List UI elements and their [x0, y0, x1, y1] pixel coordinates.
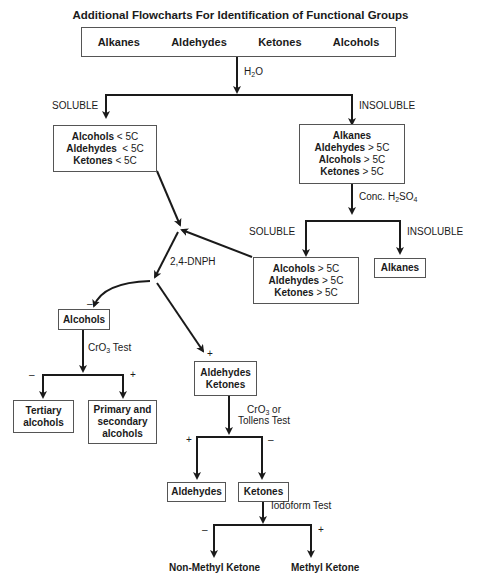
label-insoluble-1: INSOLUBLE: [359, 100, 415, 111]
soluble-small-carbon-box: Alcohols < 5C Aldehydes < 5C Ketones < 5…: [53, 125, 157, 172]
aldehydes-box: Aldehydes: [167, 482, 226, 502]
sign-plus-aldehydes-ketones: +: [207, 348, 213, 359]
reagent-2-4-dnph: 2,4-DNPH: [170, 256, 216, 267]
sign-plus-aldehydes: +: [186, 434, 192, 445]
sign-minus-tertiary: –: [29, 369, 35, 380]
result-methyl-ketone: Methyl Ketone: [291, 562, 359, 573]
result-non-methyl-ketone: Non-Methyl Ketone: [169, 562, 260, 573]
soluble-large-carbon-box: Alcohols > 5C Aldehydes > 5C Ketones > 5…: [253, 257, 359, 304]
reagent-cro3-tollens: CrO3 or Tollens Test: [238, 404, 290, 426]
sign-minus-ketones: –: [268, 434, 274, 445]
insoluble-large-carbon-box: Alkanes Aldehydes > 5C Alcohols > 5C Ket…: [299, 124, 405, 184]
reagent-conc-h2so4: Conc. H2SO4: [359, 191, 417, 202]
label-insoluble-2: INSOLUBLE: [407, 226, 463, 237]
diagram-title: Additional Flowcharts For Identification…: [0, 9, 481, 21]
sign-plus-primary: +: [130, 369, 136, 380]
group-ketones: Ketones: [258, 36, 301, 48]
alcohols-box: Alcohols: [58, 309, 110, 330]
functional-groups-box: Alkanes Aldehydes Ketones Alcohols: [81, 27, 396, 57]
alkanes-box: Alkanes: [374, 258, 426, 278]
sign-plus-methyl: +: [318, 524, 324, 535]
aldehydes-ketones-box: Aldehydes Ketones: [194, 361, 257, 396]
label-soluble-2: SOLUBLE: [249, 226, 295, 237]
group-alkanes: Alkanes: [98, 36, 140, 48]
primary-secondary-alcohols-box: Primary and secondary alcohols: [88, 400, 157, 444]
tertiary-alcohols-box: Tertiary alcohols: [13, 400, 74, 433]
reagent-cro3-test: CrO3 Test: [88, 342, 131, 353]
group-alcohols: Alcohols: [333, 36, 379, 48]
sign-minus-non-methyl: –: [202, 524, 208, 535]
label-soluble-1: SOLUBLE: [52, 100, 98, 111]
reagent-h2o: H2O: [244, 66, 263, 77]
group-aldehydes: Aldehydes: [171, 36, 227, 48]
ketones-box: Ketones: [238, 482, 289, 502]
sign-minus-alcohols: –: [87, 298, 93, 309]
reagent-iodoform-test: Iodoform Test: [271, 500, 331, 511]
